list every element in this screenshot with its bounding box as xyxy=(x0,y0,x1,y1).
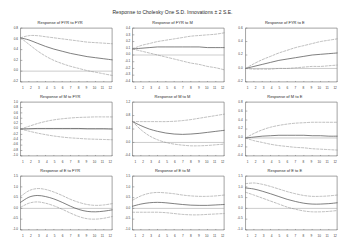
x-tick-label: 8 xyxy=(75,161,83,164)
figure-title: Response to Cholesky One S.D. Innovation… xyxy=(0,9,345,15)
panel-title: Response of E to E xyxy=(229,168,341,173)
irf-panel-fyr-to-m: Response of FYR to M0.40.30.20.10.0-0.1-… xyxy=(116,18,228,92)
x-tick-label: 9 xyxy=(195,235,203,238)
x-axis-tick-labels: 123456789101112 xyxy=(131,235,226,238)
series-line-lower xyxy=(133,49,225,70)
x-tick-label: 9 xyxy=(307,235,315,238)
series-line-upper xyxy=(133,114,225,121)
x-tick-label: 12 xyxy=(106,87,114,90)
x-axis-tick-labels: 123456789101112 xyxy=(19,235,114,238)
panel-title: Response of M to E xyxy=(229,94,341,99)
x-tick-label: 9 xyxy=(83,235,91,238)
x-tick-label: 11 xyxy=(98,161,106,164)
plot-frame xyxy=(245,102,337,156)
x-tick-label: 2 xyxy=(252,235,260,238)
x-tick-label: 10 xyxy=(203,87,211,90)
x-tick-label: 1 xyxy=(131,161,139,164)
panel-title: Response of E to M xyxy=(116,168,228,173)
x-tick-label: 7 xyxy=(179,161,187,164)
x-tick-label: 1 xyxy=(244,235,252,238)
irf-panel-e-to-e: Response of E to E1.51.00.50.0-0.5-1.012… xyxy=(229,166,341,240)
x-tick-label: 2 xyxy=(27,235,35,238)
x-tick-label: 2 xyxy=(139,161,147,164)
x-axis-tick-labels: 123456789101112 xyxy=(244,87,339,90)
x-tick-label: 8 xyxy=(75,87,83,90)
x-tick-label: 8 xyxy=(187,235,195,238)
x-tick-label: 9 xyxy=(307,87,315,90)
x-tick-label: 9 xyxy=(307,161,315,164)
x-tick-label: 1 xyxy=(131,235,139,238)
x-tick-label: 12 xyxy=(219,161,227,164)
x-tick-label: 12 xyxy=(219,235,227,238)
x-tick-label: 3 xyxy=(35,161,43,164)
x-tick-label: 3 xyxy=(260,161,268,164)
x-tick-label: 4 xyxy=(268,161,276,164)
panel-title: Response of M to FYR xyxy=(4,94,116,99)
plot-frame xyxy=(245,176,337,230)
plot-area xyxy=(116,101,226,157)
plot-frame xyxy=(245,28,337,82)
series-line-lower xyxy=(21,129,113,140)
series-line-response xyxy=(133,202,225,206)
x-tick-label: 7 xyxy=(179,235,187,238)
x-tick-label: 4 xyxy=(268,235,276,238)
x-tick-label: 10 xyxy=(203,161,211,164)
series-line-upper xyxy=(21,117,113,129)
x-tick-label: 10 xyxy=(315,87,323,90)
x-tick-label: 4 xyxy=(43,87,51,90)
x-tick-label: 1 xyxy=(244,161,252,164)
x-tick-label: 7 xyxy=(67,87,75,90)
plot-area xyxy=(116,27,226,83)
series-line-response xyxy=(245,188,337,204)
series-line-lower xyxy=(245,192,337,212)
x-tick-label: 7 xyxy=(291,87,299,90)
x-tick-label: 6 xyxy=(59,235,67,238)
x-tick-label: 8 xyxy=(187,87,195,90)
panel-title: Response of M to M xyxy=(116,94,228,99)
x-tick-label: 6 xyxy=(171,87,179,90)
irf-panel-m-to-e: Response of M to E0.80.60.40.20.0-0.2-0.… xyxy=(229,92,341,166)
x-tick-label: 10 xyxy=(90,161,98,164)
series-line-lower xyxy=(245,138,337,150)
x-tick-label: 5 xyxy=(163,87,171,90)
x-tick-label: 8 xyxy=(187,161,195,164)
series-line-upper xyxy=(133,33,225,49)
x-tick-label: 8 xyxy=(75,235,83,238)
x-tick-label: 1 xyxy=(131,87,139,90)
x-tick-label: 11 xyxy=(323,161,331,164)
x-axis-tick-labels: 123456789101112 xyxy=(19,161,114,164)
panel-title: Response of FYR to E xyxy=(229,20,341,25)
irf-panel-m-to-fyr: Response of M to FYR1.00.80.60.40.20.0-0… xyxy=(4,92,116,166)
plot-area xyxy=(116,175,226,231)
x-tick-label: 3 xyxy=(35,87,43,90)
panel-title: Response of E to FYR xyxy=(4,168,116,173)
plot-frame xyxy=(21,176,113,230)
plot-area xyxy=(229,27,339,83)
x-tick-label: 6 xyxy=(59,87,67,90)
x-tick-label: 11 xyxy=(323,87,331,90)
x-tick-label: 12 xyxy=(106,235,114,238)
series-line-response xyxy=(133,47,225,49)
series-line-upper xyxy=(21,189,113,206)
x-tick-label: 5 xyxy=(163,235,171,238)
irf-panel-e-to-m: Response of E to M1.51.00.50.0-0.5-1.012… xyxy=(116,166,228,240)
x-tick-label: 11 xyxy=(323,235,331,238)
series-line-response xyxy=(245,135,337,138)
series-line-upper xyxy=(21,35,113,43)
plot-frame xyxy=(21,28,113,82)
x-tick-label: 6 xyxy=(171,161,179,164)
x-tick-label: 7 xyxy=(67,161,75,164)
x-tick-label: 10 xyxy=(203,235,211,238)
x-axis-tick-labels: 123456789101112 xyxy=(131,87,226,90)
series-line-response xyxy=(133,122,225,135)
x-tick-label: 4 xyxy=(155,161,163,164)
series-line-upper xyxy=(133,192,225,200)
x-tick-label: 3 xyxy=(147,235,155,238)
x-tick-label: 3 xyxy=(35,235,43,238)
irf-panel-fyr-to-fyr: Response of FYR to FYR0.80.60.40.20.0-0.… xyxy=(4,18,116,92)
x-tick-label: 12 xyxy=(219,87,227,90)
x-tick-label: 4 xyxy=(155,235,163,238)
x-tick-label: 12 xyxy=(331,87,339,90)
plot-area xyxy=(4,27,114,83)
plot-area xyxy=(229,101,339,157)
